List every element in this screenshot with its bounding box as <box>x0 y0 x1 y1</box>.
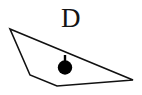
quadrilateral-outline <box>10 29 133 86</box>
figure-label-d: D <box>0 5 142 32</box>
marked-point-dot <box>58 60 72 74</box>
figure-canvas: D <box>0 0 142 95</box>
